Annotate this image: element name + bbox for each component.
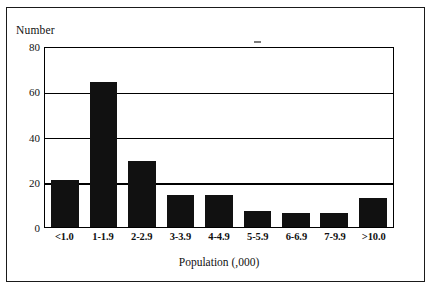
bar-slot: [123, 48, 161, 227]
bar-slot: [238, 48, 276, 227]
chart-figure: Number 806040200 <1.01-1.92-2.93-3.94-4.…: [0, 0, 440, 291]
bar-series: [45, 48, 393, 227]
bar-slot: [354, 48, 392, 227]
bar-slot: [277, 48, 315, 227]
x-axis-tick-label: 4-4.9: [200, 231, 239, 242]
x-axis-tick-label: 7-9.9: [316, 231, 355, 242]
bar-7-9.9: [320, 213, 348, 227]
y-axis-tick-label: 0: [0, 222, 40, 234]
bar-slot: [84, 48, 122, 227]
y-axis-tick-label: 60: [0, 86, 40, 98]
y-axis-tick-label: 40: [0, 132, 40, 144]
bar-<1.0: [51, 180, 79, 228]
y-axis-tick-labels: 806040200: [0, 47, 40, 228]
bar-6-6.9: [282, 213, 310, 227]
x-axis-tick-label: 5-5.9: [238, 231, 277, 242]
x-axis-tick-label: 3-3.9: [161, 231, 200, 242]
bar-3-3.9: [167, 195, 195, 227]
x-axis-title: Population (,000): [44, 256, 394, 268]
bar->10.0: [359, 198, 387, 227]
bar-slot: [161, 48, 199, 227]
plot-area: [44, 47, 394, 228]
bar-slot: [315, 48, 353, 227]
y-axis-title: Number: [16, 24, 55, 36]
bar-1-1.9: [90, 82, 118, 227]
bar-4-4.9: [205, 195, 233, 227]
bar-2-2.9: [128, 161, 156, 227]
y-axis-tick-label: 80: [0, 41, 40, 53]
x-axis-tick-label: >10.0: [354, 231, 393, 242]
x-axis-tick-labels: <1.01-1.92-2.93-3.94-4.95-5.96-6.97-9.9>…: [44, 231, 394, 242]
x-axis-tick-label: 2-2.9: [122, 231, 161, 242]
x-axis-tick-label: 1-1.9: [84, 231, 123, 242]
x-axis-tick-label: <1.0: [45, 231, 84, 242]
bar-slot: [200, 48, 238, 227]
y-axis-tick-label: 20: [0, 177, 40, 189]
bar-5-5.9: [244, 211, 272, 227]
x-axis-tick-label: 6-6.9: [277, 231, 316, 242]
scan-artifact-mark: [254, 41, 261, 43]
bar-slot: [46, 48, 84, 227]
